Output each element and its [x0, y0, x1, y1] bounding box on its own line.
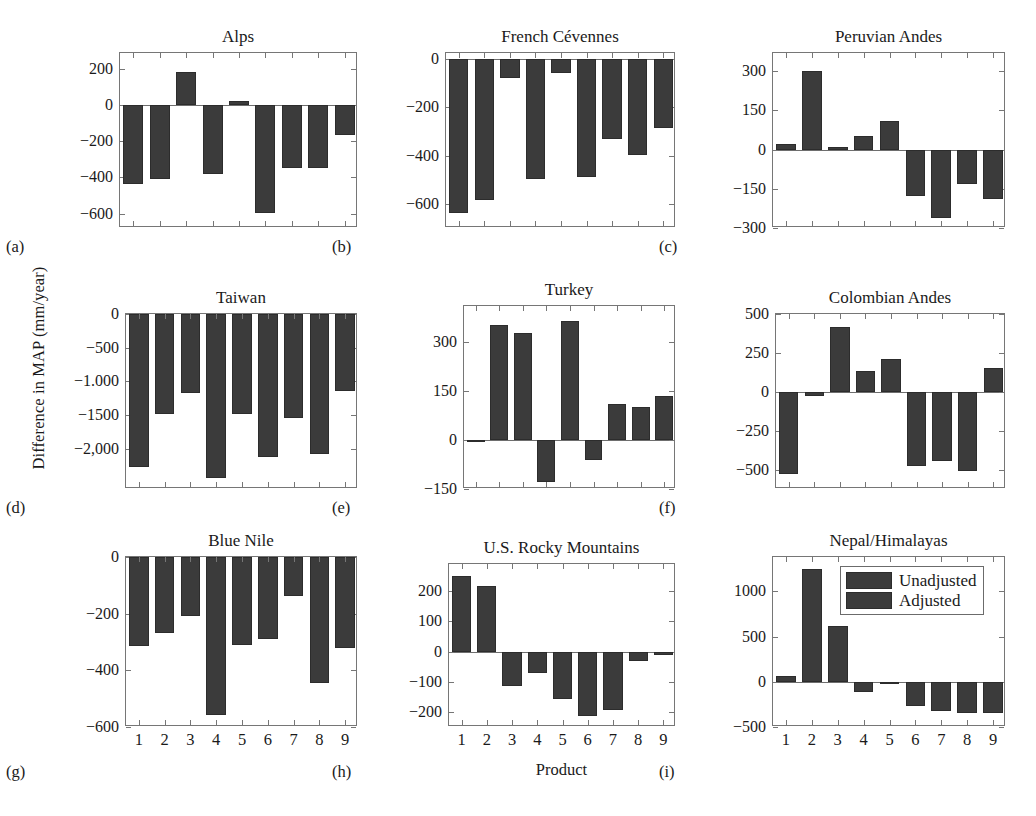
bar [129, 314, 149, 467]
x-tick-label: 7 [289, 725, 297, 750]
x-tick-mark [915, 221, 916, 226]
x-tick-mark-top [890, 53, 891, 58]
y-axis-label: Difference in MAP (mm/year) [29, 133, 49, 603]
x-tick-mark [535, 221, 536, 226]
x-tick-mark-top [319, 314, 320, 319]
bar [123, 105, 143, 184]
bar [906, 682, 926, 706]
x-tick-mark [812, 221, 813, 226]
x-tick-label: 8 [634, 725, 642, 750]
y-tick-label: −150 [733, 180, 773, 198]
x-tick-mark-top [510, 53, 511, 58]
x-tick-mark [561, 221, 562, 226]
subfigure-label-a: (a) [6, 237, 24, 257]
y-tick-mark [464, 342, 469, 343]
y-tick-mark [773, 189, 778, 190]
x-tick-mark-top [139, 557, 140, 562]
y-tick-mark-right [999, 110, 1004, 111]
x-tick-mark-top [812, 557, 813, 562]
x-tick-mark [459, 221, 460, 226]
x-tick-label: 3 [834, 725, 842, 750]
bar [654, 652, 673, 656]
legend-label-adjusted: Adjusted [899, 591, 960, 610]
y-tick-mark-right [669, 621, 674, 622]
bar [551, 59, 570, 73]
y-tick-label: −600 [406, 195, 446, 213]
bar [206, 314, 226, 478]
y-tick-label: −400 [86, 661, 126, 679]
y-tick-label: 150 [742, 101, 773, 119]
x-tick-label: 3 [508, 725, 516, 750]
x-tick-mark-top [941, 557, 942, 562]
x-tick-mark [570, 482, 571, 487]
x-tick-mark-top [638, 564, 639, 569]
x-tick-mark-top [499, 306, 500, 311]
bar [452, 576, 471, 652]
y-tick-mark [449, 682, 454, 683]
y-tick-mark [464, 489, 469, 490]
x-axis-label: Product [448, 760, 675, 780]
x-tick-mark [345, 221, 346, 226]
bar [632, 407, 650, 440]
bar [203, 105, 223, 174]
x-tick-mark [663, 221, 664, 226]
x-tick-mark [942, 482, 943, 487]
bar [608, 404, 626, 440]
panel-b: French Cévennes0−200−400−600 [445, 52, 675, 227]
bar [181, 314, 201, 393]
y-tick-mark-right [669, 712, 674, 713]
y-tick-mark [773, 228, 778, 229]
x-tick-mark [968, 482, 969, 487]
x-tick-mark [941, 221, 942, 226]
bar [129, 557, 149, 646]
x-tick-mark [242, 482, 243, 487]
x-tick-mark-top [638, 53, 639, 58]
subfigure-label-g: (g) [6, 762, 25, 782]
bar [308, 105, 328, 168]
panel-title-i: Nepal/Himalayas [772, 531, 1005, 551]
plot-area-a: 2000−200−400−600 [119, 52, 357, 227]
x-tick-mark-top [242, 557, 243, 562]
y-tick-label: −400 [80, 168, 120, 186]
x-tick-mark [318, 221, 319, 226]
x-tick-mark-top [216, 557, 217, 562]
x-tick-mark-top [663, 53, 664, 58]
y-tick-label: 200 [89, 60, 120, 78]
bar [602, 59, 621, 139]
y-tick-label: −100 [409, 673, 449, 691]
x-tick-mark [213, 221, 214, 226]
legend-swatch-adjusted [846, 592, 892, 609]
y-tick-mark [776, 353, 781, 354]
y-tick-mark-right [351, 69, 356, 70]
x-tick-label: 2 [808, 725, 816, 750]
subfigure-label-c: (c) [659, 237, 677, 257]
bar [830, 327, 849, 393]
x-tick-mark-top [268, 557, 269, 562]
bar [856, 371, 875, 392]
y-tick-mark-right [999, 431, 1004, 432]
y-tick-mark [773, 682, 778, 683]
x-tick-mark-top [190, 314, 191, 319]
panel-f: Colombian Andes5002500−250−500 [775, 313, 1005, 488]
bar [335, 105, 355, 134]
x-tick-label: 6 [911, 725, 919, 750]
y-tick-label: −200 [80, 132, 120, 150]
panel-title-a: Alps [119, 27, 357, 47]
y-tick-mark-right [999, 637, 1004, 638]
y-tick-label: −600 [86, 718, 126, 736]
x-tick-mark [186, 221, 187, 226]
y-tick-label: 0 [105, 96, 120, 114]
x-tick-mark-top [512, 564, 513, 569]
x-tick-label: 8 [315, 725, 323, 750]
x-tick-mark-top [942, 314, 943, 319]
y-tick-mark [449, 712, 454, 713]
y-tick-label: −150 [424, 480, 464, 498]
x-tick-mark-top [139, 314, 140, 319]
bar [957, 150, 977, 185]
legend-label-unadjusted: Unadjusted [899, 571, 976, 590]
x-tick-mark-top [265, 53, 266, 58]
x-tick-mark [594, 482, 595, 487]
legend-item-adjusted: Adjusted [846, 591, 976, 610]
y-tick-label: 200 [418, 582, 449, 600]
x-tick-mark-top [537, 564, 538, 569]
